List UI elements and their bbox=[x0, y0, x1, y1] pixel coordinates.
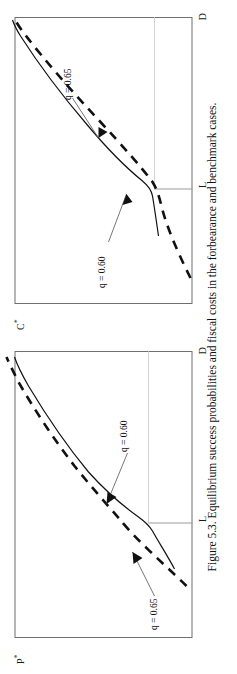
chart-panel-c-star: C* L D q = 0.60 bbox=[14, 17, 192, 304]
annotation-q065-c-star: q = 0.65 bbox=[62, 69, 72, 100]
curve-q060-solid-c-star bbox=[12, 20, 158, 236]
y-axis-label-superscript: * bbox=[12, 319, 21, 323]
curve-q065-dashed-p-star bbox=[6, 357, 186, 586]
curve-q060-solid-p-star bbox=[14, 357, 174, 569]
leader-line-q065-c-star bbox=[72, 98, 98, 138]
leader-line-q060-c-star bbox=[108, 194, 126, 242]
figure-page: P* L D bbox=[0, 0, 237, 674]
figure-panels-row: P* L D bbox=[0, 0, 237, 674]
annotation-q060-c-star: q = 0.60 bbox=[96, 257, 106, 288]
curve-q065-dashed-c-star bbox=[14, 18, 190, 278]
chart-panel-p-star: P* L D bbox=[14, 351, 192, 638]
plot-curves-p-star bbox=[14, 351, 192, 638]
y-axis-label-p-star: P* bbox=[12, 654, 25, 664]
y-axis-label-c-star: C* bbox=[12, 319, 25, 330]
arrowhead-q060-c-star bbox=[122, 194, 132, 205]
rotated-figure-stage: P* L D bbox=[0, 0, 237, 674]
figure-caption: Figure 5.3. Equilibrium success probabil… bbox=[205, 0, 217, 674]
annotation-q060-p-star: q = 0.60 bbox=[118, 421, 128, 452]
y-axis-label-text: P bbox=[14, 658, 25, 664]
annotation-q065-p-star: q = 0.65 bbox=[148, 599, 158, 630]
y-axis-label-superscript: * bbox=[12, 654, 21, 658]
arrowhead-q065-c-star bbox=[98, 127, 107, 138]
y-axis-label-text: C bbox=[14, 323, 25, 330]
arrowhead-q065-p-star bbox=[132, 552, 142, 564]
